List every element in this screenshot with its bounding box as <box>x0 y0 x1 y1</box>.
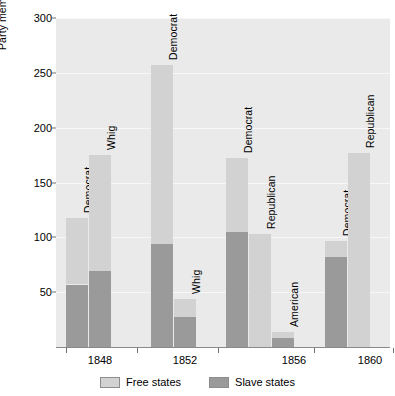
y-axis-tick-label: 250 <box>18 67 52 79</box>
gridline <box>56 18 390 19</box>
x-axis-tick-label-1860: 1860 <box>358 354 382 366</box>
legend-item: Free states <box>100 376 181 388</box>
x-axis-tick-mark <box>66 348 67 353</box>
gridline <box>56 73 390 74</box>
legend-swatch <box>100 377 120 388</box>
x-axis-tick-label-1848: 1848 <box>88 354 112 366</box>
legend-item: Slave states <box>209 376 295 388</box>
bar-1856-republican <box>249 234 271 347</box>
legend-swatch <box>209 377 229 388</box>
legend: Free statesSlave states <box>0 372 395 392</box>
y-axis-tick-label: 200 <box>18 122 52 134</box>
x-axis-tick-mark <box>218 348 219 353</box>
bar-segment-free-states <box>226 158 248 231</box>
bar-segment-free-states <box>325 241 347 257</box>
bar-segment-slave-states <box>174 317 196 347</box>
bar-1848-whig <box>89 155 111 347</box>
bar-segment-free-states <box>89 155 111 271</box>
bar-1856-american <box>272 332 294 347</box>
y-axis-tick-mark <box>52 292 56 293</box>
bar-1848-democrat <box>66 218 88 347</box>
legend-label: Free states <box>126 376 181 388</box>
y-axis-tick-mark <box>52 237 56 238</box>
bar-label-1852-democrat: Democrat <box>167 14 179 60</box>
legend-label: Slave states <box>235 376 295 388</box>
x-axis-tick-mark <box>137 348 138 353</box>
bar-segment-free-states <box>66 218 88 285</box>
bar-label-1860-republican: Republican <box>364 94 376 148</box>
x-axis-tick-label-1856: 1856 <box>282 354 306 366</box>
bar-segment-slave-states <box>89 271 111 347</box>
y-axis-tick-mark <box>52 72 56 73</box>
y-axis-tick-label: 100 <box>18 231 52 243</box>
bar-1852-democrat <box>151 65 173 347</box>
bar-label-1856-republican: Republican <box>265 175 277 229</box>
y-axis-tick-label: 300 <box>18 12 52 24</box>
bar-label-1852-whig: Whig <box>190 269 202 293</box>
y-axis-tick-label: 50 <box>18 286 52 298</box>
x-axis-tick-mark <box>393 348 394 353</box>
y-axis-tick-mark <box>52 127 56 128</box>
bar-segment-free-states <box>249 234 271 347</box>
bar-label-1848-whig: Whig <box>105 126 117 150</box>
bar-segment-slave-states <box>325 257 347 347</box>
bar-segment-slave-states <box>272 338 294 347</box>
bar-1856-democrat <box>226 158 248 347</box>
x-axis-tick-mark <box>314 348 315 353</box>
bar-segment-free-states <box>174 299 196 318</box>
plot-area: DemocratWhigDemocratWhigDemocratRepublic… <box>56 18 390 347</box>
bar-chart: Party members in House of Representative… <box>0 0 395 396</box>
bar-segment-free-states <box>348 153 370 347</box>
bar-segment-free-states <box>272 332 294 339</box>
y-axis-tick-labels: 50100150200250300 <box>0 0 52 396</box>
bar-1860-republican <box>348 153 370 347</box>
bar-segment-free-states <box>151 65 173 244</box>
bar-1852-whig <box>174 299 196 347</box>
y-axis-tick-mark <box>52 18 56 19</box>
bar-segment-slave-states <box>66 285 88 348</box>
bar-segment-slave-states <box>226 232 248 347</box>
bar-label-1856-democrat: Democrat <box>242 107 254 153</box>
y-axis-tick-label: 150 <box>18 177 52 189</box>
bar-label-1856-american: American <box>288 281 300 326</box>
bar-segment-slave-states <box>151 244 173 347</box>
x-axis-tick-label-1852: 1852 <box>173 354 197 366</box>
x-axis-line <box>56 347 390 348</box>
y-axis-tick-mark <box>52 182 56 183</box>
bar-1860-democrat <box>325 241 347 347</box>
